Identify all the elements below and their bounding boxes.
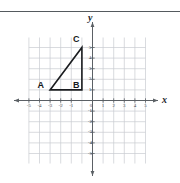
x-tick-label--4: -4	[35, 103, 45, 109]
x-axis-arrow-left	[14, 99, 19, 103]
y-tick-label-3: 3	[85, 66, 95, 72]
x-tick-label-4: 4	[130, 103, 140, 109]
x-tick-label--1: -1	[66, 103, 76, 109]
vertex-label-a: A	[38, 80, 45, 90]
vertex-label-b: B	[73, 80, 80, 90]
y-tick-label-1: 1	[85, 87, 95, 93]
x-tick-label--3: -3	[45, 103, 55, 109]
y-tick-label--2: -2	[85, 119, 95, 125]
x-tick-label-1: 1	[98, 103, 108, 109]
x-tick-label--5: -5	[24, 103, 34, 109]
y-axis-arrow-down	[91, 171, 95, 176]
x-axis-arrow-right	[153, 99, 158, 103]
y-tick-label-5: 5	[85, 45, 95, 51]
x-tick-label-5: 5	[141, 103, 151, 109]
y-tick-label-4: 4	[85, 55, 95, 61]
y-tick-label--1: -1	[85, 108, 95, 114]
y-tick-label--4: -4	[85, 140, 95, 146]
coordinate-plane-figure: -5 -4 -3 -2 -1 0 1 2 3 4 5 1 2 3 4 5 -1 …	[0, 0, 180, 183]
y-axis-label: y	[88, 12, 92, 23]
x-tick-label-3: 3	[119, 103, 129, 109]
x-tick-label-2: 2	[109, 103, 119, 109]
y-tick-label-2: 2	[85, 76, 95, 82]
y-tick-label--3: -3	[85, 129, 95, 135]
x-tick-label--2: -2	[56, 103, 66, 109]
x-axis-label: x	[162, 94, 167, 105]
vertex-label-c: C	[73, 34, 80, 44]
y-tick-label--5: -5	[85, 151, 95, 157]
